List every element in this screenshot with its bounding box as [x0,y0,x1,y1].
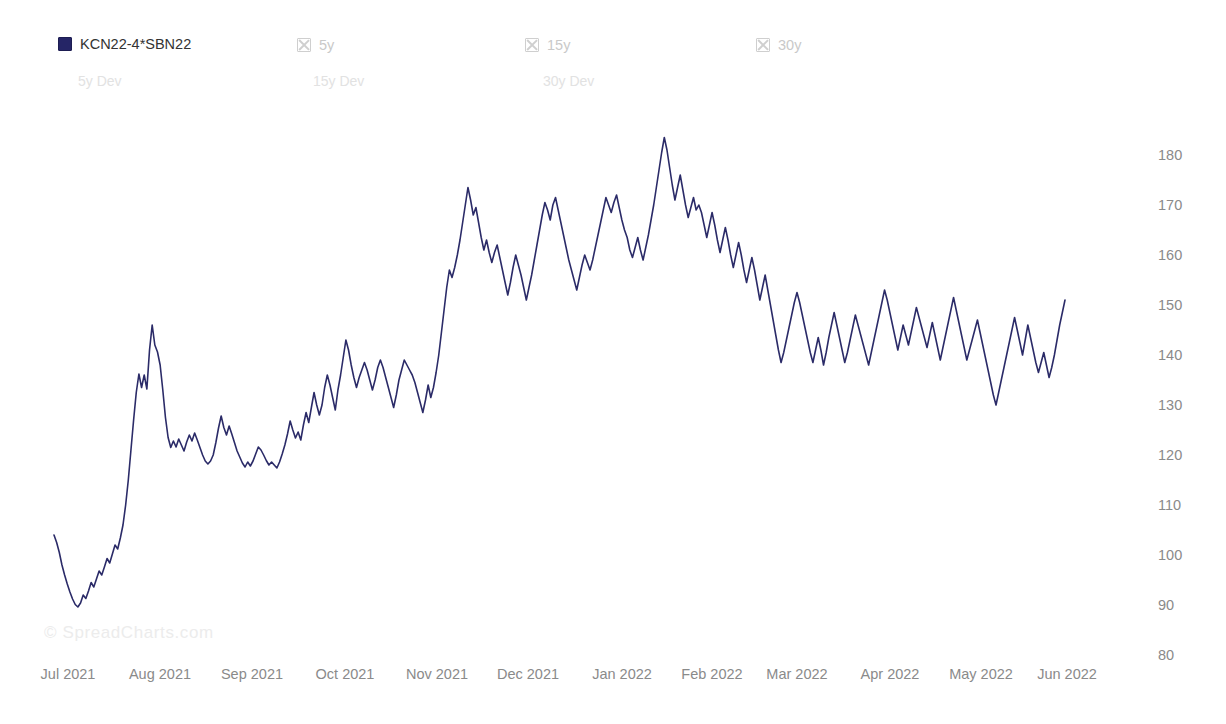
legend-item-label: 15y [547,37,570,53]
y-axis-tick: 180 [1158,148,1182,162]
legend-item-5y[interactable]: 5y [297,37,334,53]
legend-item-label: KCN22-4*SBN22 [80,36,191,52]
x-axis-tick: Mar 2022 [766,666,827,682]
y-axis-tick: 120 [1158,448,1182,462]
chart-legend: KCN22-4*SBN22 5y 15y 30y 5y Dev 15y Dev … [0,28,1226,98]
x-axis-tick: Nov 2021 [406,666,468,682]
y-axis-tick: 140 [1158,348,1182,362]
x-axis-tick: Apr 2022 [861,666,920,682]
x-axis-tick: Jan 2022 [592,666,652,682]
watermark: © SpreadCharts.com [44,623,214,643]
y-axis-tick: 170 [1158,198,1182,212]
legend-item-30y[interactable]: 30y [756,37,801,53]
legend-item-30y-dev[interactable]: 30y Dev [543,73,594,89]
crossed-box-icon [297,38,311,52]
x-axis-tick: Jul 2021 [41,666,96,682]
x-axis-tick: May 2022 [949,666,1013,682]
x-axis-tick: Jun 2022 [1037,666,1097,682]
legend-item-series[interactable]: KCN22-4*SBN22 [58,36,191,52]
filled-square-icon [58,37,72,51]
legend-item-15y-dev[interactable]: 15y Dev [313,73,364,89]
x-axis-tick: Dec 2021 [497,666,559,682]
legend-item-label: 30y [778,37,801,53]
plot-area[interactable]: © SpreadCharts.com [0,100,1226,670]
x-axis-tick: Aug 2021 [129,666,191,682]
x-axis: Jul 2021Aug 2021Sep 2021Oct 2021Nov 2021… [0,660,1226,700]
legend-item-5y-dev[interactable]: 5y Dev [78,73,122,89]
y-axis: 1801701601501401301201101009080 [1152,100,1226,680]
legend-item-15y[interactable]: 15y [525,37,570,53]
x-axis-tick: Sep 2021 [221,666,283,682]
legend-item-label: 5y [319,37,334,53]
y-axis-tick: 100 [1158,548,1182,562]
price-line-chart [0,100,1226,670]
x-axis-tick: Oct 2021 [316,666,375,682]
x-axis-tick: Feb 2022 [681,666,742,682]
spread-chart-app: KCN22-4*SBN22 5y 15y 30y 5y Dev 15y Dev … [0,0,1226,724]
y-axis-tick: 110 [1158,498,1181,512]
crossed-box-icon [525,38,539,52]
series-line-kcn22 [54,138,1065,608]
y-axis-tick: 130 [1158,398,1182,412]
y-axis-tick: 150 [1158,298,1182,312]
y-axis-tick: 160 [1158,248,1182,262]
y-axis-tick: 90 [1158,598,1174,612]
crossed-box-icon [756,38,770,52]
